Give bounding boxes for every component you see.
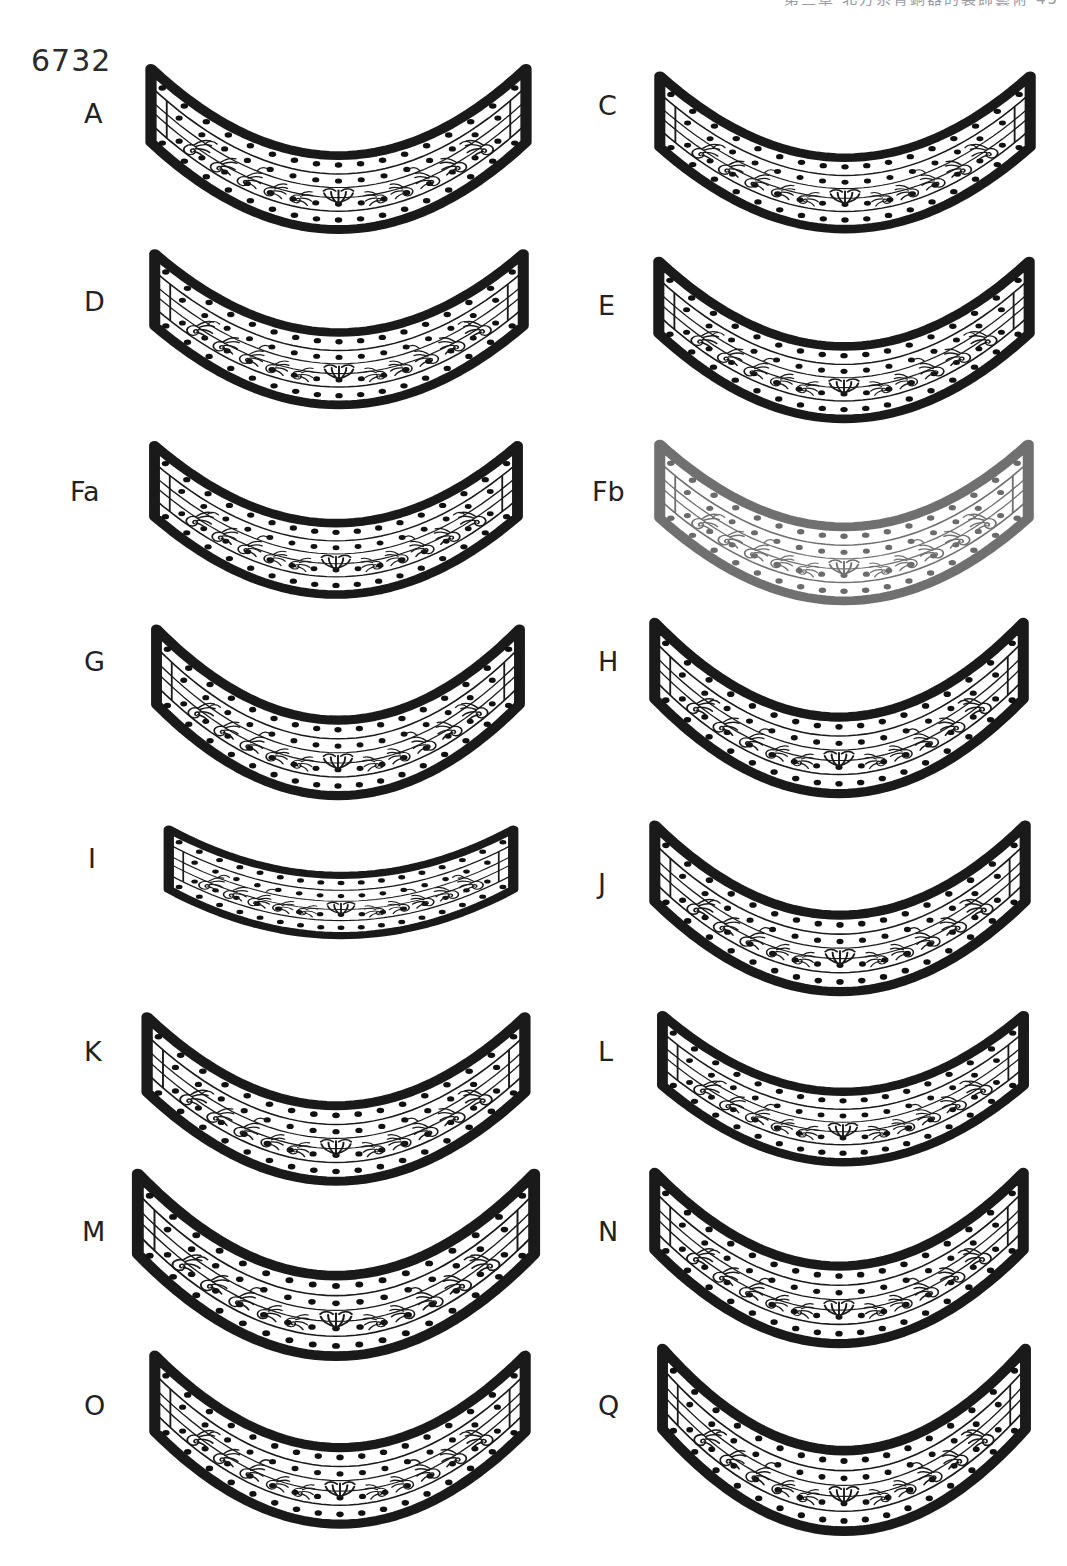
artifact-drawing-d (140, 238, 538, 380)
artifact-drawing-e (644, 245, 1044, 387)
artifact-drawing-fa (140, 430, 532, 570)
item-label-d: D (84, 288, 105, 315)
item-label-g: G (84, 648, 105, 675)
item-label-q: Q (598, 1392, 619, 1419)
catalog-plate: 第三章 北方系青銅器的裝飾藝術 45 6732 ACDEFaFbGHIJKLMN… (0, 0, 1067, 1566)
item-label-a: A (84, 100, 102, 127)
item-label-e: E (598, 292, 615, 319)
artifact-drawing-n (640, 1155, 1038, 1307)
artifact-drawing-h (640, 605, 1038, 755)
catalog-number: 6732 (31, 46, 111, 76)
artifact-drawing-j (640, 808, 1040, 958)
artifact-drawing-a (136, 52, 541, 197)
artifact-drawing-g (142, 612, 534, 760)
item-label-o: O (84, 1392, 105, 1419)
item-label-k: K (84, 1038, 102, 1065)
item-label-h: H (598, 648, 618, 675)
artifact-drawing-k (132, 1000, 540, 1148)
item-label-c: C (598, 92, 617, 119)
artifact-drawing-m (122, 1155, 550, 1313)
item-label-m: M (82, 1218, 105, 1245)
artifact-drawing-o (140, 1338, 540, 1488)
item-label-n: N (598, 1218, 618, 1245)
item-label-fb: Fb (592, 478, 625, 505)
item-label-j: J (598, 870, 606, 897)
artifact-drawing-l (648, 1000, 1038, 1138)
item-label-fa: Fa (70, 478, 100, 505)
item-label-l: L (598, 1038, 613, 1065)
running-header: 第三章 北方系青銅器的裝飾藝術 45 (0, 0, 1067, 9)
artifact-drawing-c (645, 60, 1045, 200)
artifact-drawing-fb (645, 428, 1043, 573)
artifact-drawing-i (155, 818, 527, 936)
artifact-drawing-q (648, 1330, 1040, 1488)
running-header-text: 第三章 北方系青銅器的裝飾藝術 45 (784, 0, 1059, 8)
item-label-i: I (88, 845, 96, 872)
